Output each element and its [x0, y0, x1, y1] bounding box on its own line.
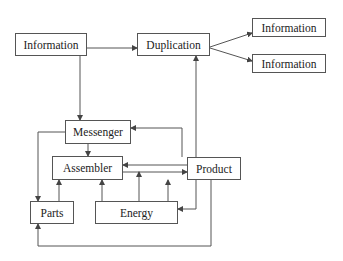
node-duplication: Duplication	[137, 33, 210, 56]
node-label: Information	[262, 22, 317, 34]
edge-duplication-info2	[210, 48, 252, 61]
node-label: Messenger	[73, 126, 123, 138]
node-information-copy-2: Information	[252, 54, 326, 73]
edge-product-messenger	[131, 128, 182, 157]
node-energy: Energy	[95, 201, 178, 224]
node-label: Information	[24, 39, 79, 51]
edge-duplication-info1	[210, 33, 252, 47]
node-label: Product	[196, 163, 232, 175]
node-information-copy-1: Information	[252, 18, 326, 37]
node-information-source: Information	[15, 33, 87, 56]
node-messenger: Messenger	[65, 120, 131, 144]
edge-product-energy	[178, 180, 196, 209]
node-assembler: Assembler	[52, 156, 123, 180]
node-product: Product	[187, 157, 241, 180]
node-label: Assembler	[63, 162, 112, 174]
node-label: Information	[262, 58, 317, 70]
node-label: Duplication	[146, 39, 200, 51]
node-label: Energy	[120, 207, 153, 219]
node-label: Parts	[41, 207, 64, 219]
node-parts: Parts	[30, 201, 74, 224]
